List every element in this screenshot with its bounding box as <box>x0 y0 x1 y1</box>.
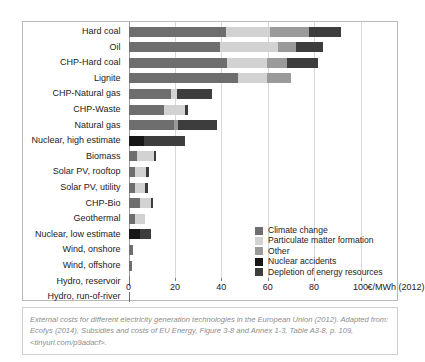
bar-segment <box>178 120 216 130</box>
bar-segment <box>129 167 136 177</box>
stacked-bar[interactable] <box>129 105 188 115</box>
legend-item[interactable]: Nuclear accidents <box>255 257 383 266</box>
bar-segment <box>129 151 137 161</box>
bar-row-label: Oil <box>110 40 121 56</box>
x-axis-tick-label: 40 <box>216 282 226 292</box>
bar-row-label: Solar PV, rooftop <box>53 164 121 180</box>
legend-swatch-icon <box>255 268 263 276</box>
legend-label: Other <box>268 247 290 256</box>
legend-item[interactable]: Depletion of energy resources <box>255 268 383 277</box>
legend-swatch-icon <box>255 258 263 266</box>
bar-row-label: Wind, onshore <box>62 242 120 258</box>
legend-label: Climate change <box>268 226 328 235</box>
stacked-bar[interactable] <box>129 73 291 83</box>
x-axis-tick <box>221 278 222 281</box>
bar-segment <box>135 214 144 224</box>
x-axis: 020406080100€/MWh (2012) <box>23 278 397 300</box>
stacked-bar[interactable] <box>129 151 157 161</box>
stacked-bar[interactable] <box>129 136 186 146</box>
bar-row-label: Lignite <box>94 71 121 87</box>
plot-inner: Hard coalOilCHP-Hard coalLigniteCHP-Natu… <box>23 22 397 300</box>
bar-row: Geothermal <box>23 211 397 227</box>
bar-segment <box>140 198 150 208</box>
bar-segment <box>129 58 228 68</box>
caption-box: External costs for different electricity… <box>22 307 398 355</box>
bar-segment <box>267 58 288 68</box>
stacked-bar[interactable] <box>129 58 318 68</box>
x-axis-tick <box>129 278 130 281</box>
legend-label: Depletion of energy resources <box>268 268 383 277</box>
bar-segment <box>146 167 149 177</box>
bar-segment <box>137 151 154 161</box>
legend-swatch-icon <box>255 237 263 245</box>
bar-row: CHP-Natural gas <box>23 86 397 102</box>
stacked-bar[interactable] <box>129 183 149 193</box>
bar-row-label: Natural gas <box>74 118 120 134</box>
x-axis-tick <box>314 278 315 281</box>
bar-segment <box>129 89 172 99</box>
bar-row-label: Biomass <box>86 149 121 165</box>
bar-segment <box>129 120 174 130</box>
bar-segment <box>129 198 141 208</box>
bar-segment <box>278 42 295 52</box>
bar-segment <box>185 105 187 115</box>
stacked-bar[interactable] <box>129 89 213 99</box>
stacked-bar[interactable] <box>129 245 134 255</box>
bar-row: Biomass <box>23 149 397 165</box>
stacked-bar[interactable] <box>129 120 217 130</box>
bar-segment <box>151 198 153 208</box>
chart-plot-area: Hard coalOilCHP-Hard coalLigniteCHP-Natu… <box>22 21 398 301</box>
bar-row: CHP-Waste <box>23 102 397 118</box>
bar-row-label: Nuclear, low estimate <box>35 227 121 243</box>
stacked-bar[interactable] <box>129 261 132 271</box>
bar-segment <box>129 105 165 115</box>
x-axis-unit-label: €/MWh (2012) <box>368 282 425 292</box>
chart-legend: Climate changeParticulate matter formati… <box>255 226 383 277</box>
bar-row: Lignite <box>23 71 397 87</box>
x-axis-tick <box>268 278 269 281</box>
bar-row-label: Wind, offshore <box>63 258 121 274</box>
bar-segment <box>164 105 185 115</box>
legend-item[interactable]: Climate change <box>255 226 383 235</box>
bar-segment <box>238 73 267 83</box>
bar-segment <box>129 42 221 52</box>
bar-row-label: Nuclear, high estimate <box>31 133 120 149</box>
stacked-bar[interactable] <box>129 27 341 37</box>
stacked-bar[interactable] <box>129 167 150 177</box>
caption-line-1: External costs for different electricity… <box>30 315 339 324</box>
bar-row: Nuclear, high estimate <box>23 133 397 149</box>
bar-segment <box>227 58 266 68</box>
bar-segment <box>135 167 145 177</box>
bar-segment <box>129 245 134 255</box>
bar-row: CHP-Bio <box>23 196 397 212</box>
legend-label: Particulate matter formation <box>268 236 374 245</box>
bar-segment <box>140 229 150 239</box>
bar-segment <box>220 42 278 52</box>
bar-row-label: Geothermal <box>73 211 120 227</box>
bar-row-label: Hard coal <box>82 24 121 40</box>
legend-item[interactable]: Particulate matter formation <box>255 236 383 245</box>
bar-segment <box>287 58 317 68</box>
bar-row-label: CHP-Natural gas <box>52 86 120 102</box>
bar-row-label: CHP-Hard coal <box>60 55 121 71</box>
bar-segment <box>129 27 226 37</box>
legend-item[interactable]: Other <box>255 247 383 256</box>
stacked-bar[interactable] <box>129 198 153 208</box>
stacked-bar[interactable] <box>129 229 151 239</box>
x-axis-tick-label: 20 <box>170 282 180 292</box>
bar-segment <box>296 42 324 52</box>
bar-row: Solar PV, rooftop <box>23 164 397 180</box>
bar-segment <box>145 183 148 193</box>
bar-segment <box>309 27 340 37</box>
bar-segment <box>129 261 132 271</box>
bar-segment <box>135 183 144 193</box>
bar-row: Hard coal <box>23 24 397 40</box>
legend-swatch-icon <box>255 227 263 235</box>
bar-row-label: Solar PV, utility <box>60 180 120 196</box>
stacked-bar[interactable] <box>129 214 145 224</box>
bar-segment <box>270 27 309 37</box>
stacked-bar[interactable] <box>129 42 324 52</box>
bar-row: Oil <box>23 40 397 56</box>
bar-segment <box>129 136 144 146</box>
